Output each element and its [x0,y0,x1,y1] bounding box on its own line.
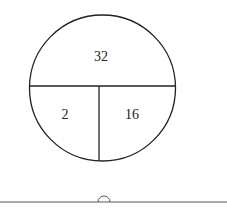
section-bottom-right-value: 16 [125,107,139,122]
section-top-value: 32 [94,49,108,64]
divided-circle-diagram: 32 2 16 [0,0,227,209]
semicircle-marker [98,196,110,202]
section-bottom-left-value: 2 [62,107,69,122]
circle-outline [30,15,176,161]
